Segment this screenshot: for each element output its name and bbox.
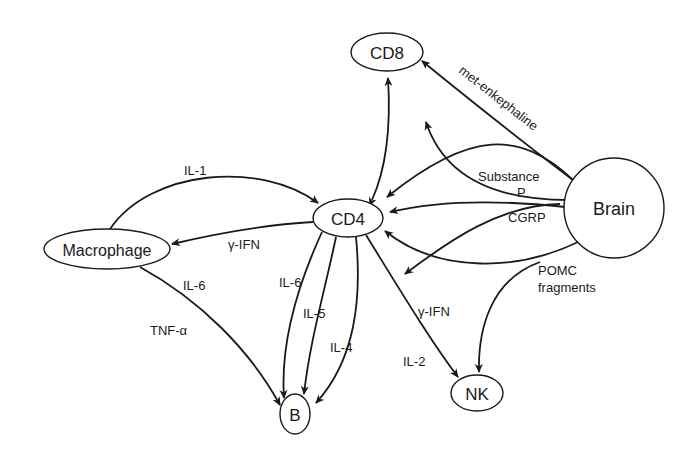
edge-cd4-cd8 bbox=[372, 78, 389, 200]
node-label-b: B bbox=[289, 406, 300, 425]
label-substance: Substance bbox=[478, 169, 539, 184]
immune-neuro-diagram: CD8 CD4 Macrophage Brain B NK IL-1 γ-IFN… bbox=[0, 0, 700, 459]
label-p: P bbox=[517, 185, 526, 200]
node-cd8: CD8 bbox=[351, 33, 423, 71]
label-ifn-nk: γ-IFN bbox=[418, 304, 450, 319]
edge-brain-nk bbox=[479, 262, 540, 372]
label-fragments: fragments bbox=[538, 280, 596, 295]
label-il2: IL-2 bbox=[403, 354, 425, 369]
label-tnf-alpha: TNF-α bbox=[150, 323, 188, 338]
label-il6-macrophage: IL-6 bbox=[183, 278, 205, 293]
label-pomc: POMC bbox=[538, 263, 577, 278]
node-label-nk: NK bbox=[465, 385, 489, 404]
node-label-cd4: CD4 bbox=[331, 210, 365, 229]
edge-macrophage-cd4-il1 bbox=[110, 177, 318, 229]
label-il6-cd4: IL-6 bbox=[279, 275, 301, 290]
node-label-brain: Brain bbox=[593, 199, 635, 219]
label-il5: IL-5 bbox=[303, 306, 325, 321]
edge-brain-cd4-lower bbox=[385, 231, 578, 264]
label-ifn-macrophage: γ-IFN bbox=[228, 237, 260, 252]
node-b: B bbox=[280, 394, 310, 434]
node-cd4: CD4 bbox=[313, 199, 383, 237]
node-brain: Brain bbox=[564, 158, 664, 258]
node-nk: NK bbox=[451, 375, 503, 411]
node-label-cd8: CD8 bbox=[370, 44, 404, 63]
label-cgrp: CGRP bbox=[508, 210, 546, 225]
label-il4: IL-4 bbox=[330, 340, 352, 355]
node-macrophage: Macrophage bbox=[44, 229, 170, 269]
label-il1: IL-1 bbox=[184, 163, 206, 178]
node-label-macrophage: Macrophage bbox=[63, 242, 152, 259]
